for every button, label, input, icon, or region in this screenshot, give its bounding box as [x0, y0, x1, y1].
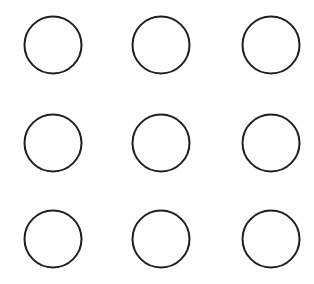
circle-grid-canvas	[0, 0, 314, 284]
canvas-background	[0, 0, 314, 284]
shape-layer	[0, 0, 314, 284]
